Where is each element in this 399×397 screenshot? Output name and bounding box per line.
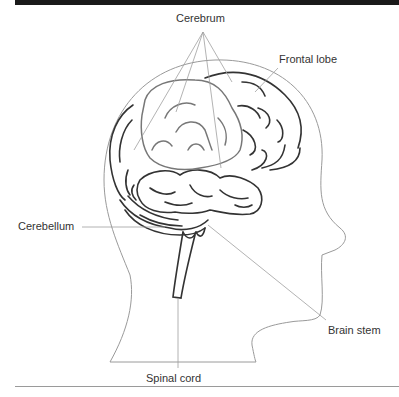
label-spinal-cord: Spinal cord bbox=[146, 373, 201, 384]
head-outline bbox=[104, 60, 345, 362]
label-frontal-lobe: Frontal lobe bbox=[279, 54, 337, 65]
frontal-lobe-leader bbox=[255, 68, 278, 92]
brain-outline bbox=[110, 72, 301, 298]
bottom-divider bbox=[15, 386, 399, 387]
brain-stem-leader bbox=[208, 225, 326, 320]
cerebrum-highlight bbox=[141, 80, 242, 170]
label-brain-stem: Brain stem bbox=[328, 325, 381, 336]
cerebrum-leader-3 bbox=[203, 32, 221, 168]
label-cerebrum: Cerebrum bbox=[176, 13, 225, 24]
brain-diagram bbox=[0, 0, 399, 397]
label-cerebellum: Cerebellum bbox=[18, 221, 74, 232]
cerebrum-leader-1 bbox=[134, 32, 203, 150]
